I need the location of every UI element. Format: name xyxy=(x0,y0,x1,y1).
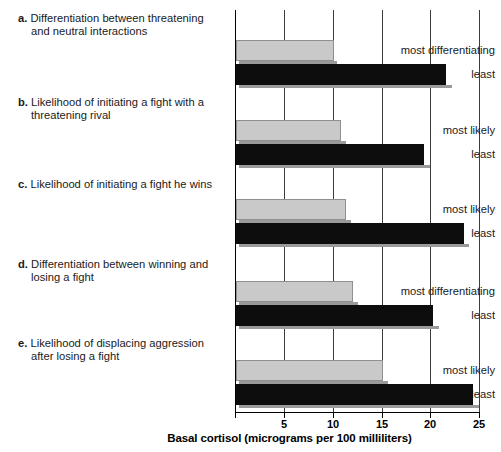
panel-b-bar-1 xyxy=(236,120,341,141)
panel-a-bar-2-shadow xyxy=(239,85,452,88)
panel-d-bar-1 xyxy=(236,281,353,302)
panel-e-bar-2-shadow xyxy=(239,405,479,408)
panel-c-bar-1 xyxy=(236,199,346,220)
panel-b-letter: b. xyxy=(18,96,28,108)
panel-d-line1: Differentiation between winning and xyxy=(31,258,208,270)
panel-a-line1: Differentiation between threatening xyxy=(30,12,203,24)
panel-d-line2: losing a fight xyxy=(31,271,94,283)
panel-b-line2: threatening rival xyxy=(31,109,111,121)
x-tick-label-20: 20 xyxy=(415,418,445,430)
panel-e-letter: e. xyxy=(18,337,27,349)
panel-b-bar-2 xyxy=(236,144,424,165)
panel-c-title: c. Likelihood of initiating a fight he w… xyxy=(18,178,233,191)
panel-d-bar-2-shadow xyxy=(239,326,439,329)
panel-c-bar-2 xyxy=(236,223,464,244)
panel-c-line1: Likelihood of initiating a fight he wins xyxy=(30,178,212,190)
panel-d-title: d. Differentiation between winning and l… xyxy=(18,258,233,285)
x-tick-label-25: 25 xyxy=(464,418,494,430)
panel-e-bar-1 xyxy=(236,360,383,381)
panel-b-line1: Likelihood of initiating a fight with a xyxy=(31,96,204,108)
x-tick-label-5: 5 xyxy=(269,418,299,430)
panel-a-line2: and neutral interactions xyxy=(31,25,147,37)
panel-a-bar-1 xyxy=(236,40,334,61)
x-axis-spine xyxy=(235,412,480,413)
x-tick-0 xyxy=(235,413,236,418)
panel-e-bar-2 xyxy=(236,384,473,405)
panel-e-title: e. Likelihood of displacing aggression a… xyxy=(18,337,233,364)
panel-c-bar-2-shadow xyxy=(239,244,469,247)
x-tick-label-15: 15 xyxy=(367,418,397,430)
panel-e-line2: after losing a fight xyxy=(31,350,119,362)
bar-chart-figure: 5 10 15 20 25 Basal cortisol (micrograms… xyxy=(0,0,501,452)
panel-b-bar-2-shadow xyxy=(239,165,430,168)
panel-c-letter: c. xyxy=(18,178,27,190)
x-axis-label: Basal cortisol (micrograms per 100 milli… xyxy=(0,432,501,444)
panel-a-letter: a. xyxy=(18,12,27,24)
panel-d-letter: d. xyxy=(18,258,28,270)
panel-d-bar-2 xyxy=(236,305,433,326)
panel-e-line1: Likelihood of displacing aggression xyxy=(30,337,204,349)
panel-b-title: b. Likelihood of initiating a fight with… xyxy=(18,96,233,123)
x-axis-label-text: Basal cortisol (micrograms per 100 milli… xyxy=(89,432,412,444)
panel-a-title: a. Differentiation between threatening a… xyxy=(18,12,233,39)
panel-a-bar-2 xyxy=(236,64,446,85)
x-tick-label-10: 10 xyxy=(318,418,348,430)
